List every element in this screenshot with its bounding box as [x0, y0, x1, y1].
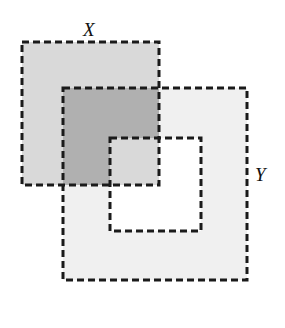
set-x-label: X [83, 20, 95, 39]
venn-diagram-figure: X Y [0, 0, 285, 328]
set-y-label: Y [255, 165, 266, 184]
venn-diagram-canvas [0, 0, 285, 328]
